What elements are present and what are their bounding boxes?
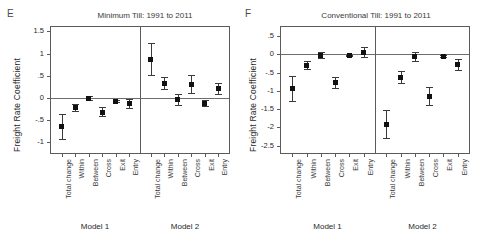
error-bar-cap	[59, 139, 66, 140]
error-bar-cap	[332, 88, 339, 89]
y-axis-tick: -.5	[47, 120, 51, 121]
y-axis-tick: -1.5	[277, 109, 281, 110]
x-axis-tick-label: Within	[310, 159, 317, 178]
x-axis-tick	[205, 153, 206, 157]
panel-f: F Conventional Till: 1991 to 2011 Freigh…	[238, 0, 476, 248]
data-point-marker	[384, 122, 389, 127]
y-axis-tick: 1	[47, 54, 51, 55]
data-point-marker	[333, 80, 338, 85]
model-divider	[375, 27, 376, 153]
error-bar-cap	[175, 94, 182, 95]
x-axis-tick-label: Between	[181, 159, 188, 186]
model-caption-e-1: Model 1	[50, 222, 140, 231]
x-axis-tick	[129, 153, 130, 157]
x-axis-tick-label: Cross	[338, 159, 345, 177]
x-axis-tick	[292, 153, 293, 157]
data-point-marker	[412, 54, 417, 59]
data-point-marker	[304, 63, 309, 68]
data-point-marker	[113, 99, 118, 104]
x-axis-tick	[151, 153, 152, 157]
data-point-marker	[216, 86, 221, 91]
x-axis-tick	[164, 153, 165, 157]
error-bar-cap	[72, 111, 79, 112]
y-axis-tick-label: -1	[267, 86, 274, 95]
x-axis-tick-label: Between	[324, 159, 331, 186]
figure-container: E Minimum Till: 1991 to 2011 Freight Rat…	[0, 0, 477, 248]
y-axis-tick-label: 1	[40, 49, 44, 58]
y-axis-tick: -1	[47, 142, 51, 143]
error-bar-cap	[455, 70, 462, 71]
data-point-marker	[318, 53, 323, 58]
error-bar-cap	[215, 94, 222, 95]
error-bar-cap	[304, 69, 311, 70]
panel-title-e: Minimum Till: 1991 to 2011	[52, 11, 238, 20]
model-caption-f-1: Model 1	[280, 222, 375, 231]
error-bar-cap	[455, 59, 462, 60]
y-axis-tick: .5	[47, 76, 51, 77]
error-bar-cap	[148, 43, 155, 44]
panel-title-f: Conventional Till: 1991 to 2011	[278, 11, 474, 20]
error-bar-cap	[175, 105, 182, 106]
data-point-marker	[73, 105, 78, 110]
x-axis-tick	[178, 153, 179, 157]
x-axis-tick-label: Within	[404, 159, 411, 178]
panel-e: E Minimum Till: 1991 to 2011 Freight Rat…	[0, 0, 238, 248]
x-axis-tick-label: Entry	[221, 159, 228, 175]
data-point-marker	[189, 82, 194, 87]
x-axis-tick-label: Entry	[461, 159, 468, 175]
error-bar-cap	[383, 138, 390, 139]
x-axis-tick	[335, 153, 336, 157]
data-point-marker	[427, 94, 432, 99]
y-axis-tick: -2.5	[277, 146, 281, 147]
x-axis-tick-label: Within	[167, 159, 174, 178]
y-axis-label-f: Freight Rate Coefficient	[248, 58, 258, 152]
y-axis-tick-label: 0	[40, 93, 44, 102]
y-axis-tick-label: -2	[267, 122, 274, 131]
x-axis-tick-label: Cross	[194, 159, 201, 177]
x-axis-tick	[321, 153, 322, 157]
x-axis-tick-label: Exit	[119, 159, 126, 171]
error-bar-cap	[126, 108, 133, 109]
x-axis-tick-label: Total change	[154, 159, 161, 199]
x-axis-tick	[415, 153, 416, 157]
error-bar-cap	[59, 114, 66, 115]
panel-letter-f: F	[245, 8, 252, 19]
y-axis-tick-label: -2.5	[261, 141, 274, 150]
x-axis-tick	[443, 153, 444, 157]
data-point-marker	[100, 110, 105, 115]
plot-area-f: .50-.5-1-1.5-2-2.5Total changeWithinBetw…	[280, 26, 470, 154]
data-point-marker	[86, 96, 91, 101]
data-point-marker	[361, 50, 366, 55]
x-axis-tick-label: Exit	[208, 159, 215, 171]
y-axis-tick-label: 0	[270, 49, 274, 58]
data-point-marker	[398, 75, 403, 80]
x-axis-tick	[75, 153, 76, 157]
x-axis-tick-label: Cross	[105, 159, 112, 177]
y-axis-tick-label: -.5	[265, 68, 274, 77]
x-axis-tick	[307, 153, 308, 157]
y-axis-tick: 1.5	[47, 31, 51, 32]
y-axis-tick-label: 1.5	[34, 26, 44, 35]
data-point-marker	[347, 53, 352, 58]
error-bar-cap	[383, 110, 390, 111]
x-axis-tick-label: Total change	[65, 159, 72, 199]
error-bar-cap	[398, 71, 405, 72]
data-point-marker	[202, 101, 207, 106]
x-axis-tick	[349, 153, 350, 157]
x-axis-tick-label: Cross	[432, 159, 439, 177]
error-bar-cap	[215, 83, 222, 84]
error-bar-cap	[161, 89, 168, 90]
data-point-marker	[162, 81, 167, 86]
error-bar-cap	[99, 107, 106, 108]
error-bar-cap	[318, 58, 325, 59]
x-axis-tick-label: Exit	[446, 159, 453, 171]
error-bar-cap	[289, 101, 296, 102]
x-axis-tick	[364, 153, 365, 157]
x-axis-tick	[62, 153, 63, 157]
x-axis-tick	[191, 153, 192, 157]
error-bar-cap	[412, 52, 419, 53]
x-axis-tick-label: Within	[78, 159, 85, 178]
error-bar-cap	[361, 57, 368, 58]
data-point-marker	[59, 124, 64, 129]
data-point-marker	[441, 54, 446, 59]
